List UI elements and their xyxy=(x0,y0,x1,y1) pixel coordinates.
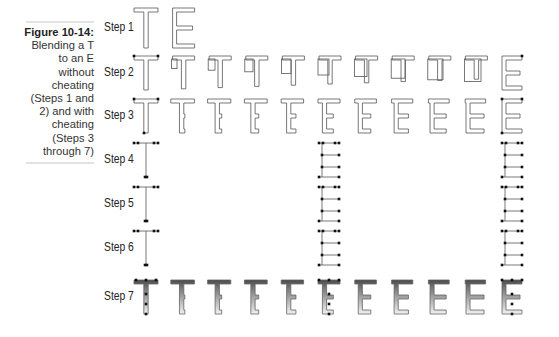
anchor-point xyxy=(145,279,148,282)
anchor-point xyxy=(318,176,321,179)
anchor-point xyxy=(521,55,524,58)
anchor-point xyxy=(501,230,504,233)
blend-step-overlap xyxy=(428,59,443,80)
anchor-point xyxy=(157,142,160,145)
anchor-point xyxy=(318,142,321,145)
anchor-point xyxy=(338,210,341,213)
letter-t-source xyxy=(134,99,158,133)
anchor-point xyxy=(501,176,504,179)
anchor-point xyxy=(318,279,321,282)
anchor-point xyxy=(521,242,524,245)
blend-step-overlap xyxy=(281,59,291,73)
letter-e-skeleton xyxy=(319,231,339,265)
blend-step-shape xyxy=(465,56,487,79)
anchor-point xyxy=(504,154,507,157)
anchor-point xyxy=(145,293,148,296)
anchor-point xyxy=(328,303,331,306)
anchor-point xyxy=(521,220,524,223)
anchor-point xyxy=(157,186,160,189)
anchor-point xyxy=(334,142,337,145)
anchor-point xyxy=(501,186,504,189)
anchor-point xyxy=(321,242,324,245)
anchor-point xyxy=(521,142,524,145)
anchor-point xyxy=(338,198,341,201)
letter-e-target xyxy=(502,56,522,90)
letter-e-outline xyxy=(173,8,195,48)
blend-step-shape xyxy=(428,99,449,133)
anchor-point xyxy=(511,279,514,282)
anchor-point xyxy=(321,198,324,201)
anchor-point xyxy=(521,186,524,189)
blend-step-shape xyxy=(429,56,451,80)
blend-step-shape xyxy=(392,99,413,133)
anchor-point xyxy=(322,186,325,189)
anchor-point xyxy=(338,264,341,267)
anchor-point xyxy=(137,142,140,145)
gradient-blend-shape xyxy=(281,280,303,314)
anchor-point xyxy=(501,132,504,135)
blend-step-shape xyxy=(209,56,231,88)
anchor-point xyxy=(322,142,325,145)
anchor-point xyxy=(511,303,514,306)
anchor-point xyxy=(321,166,324,169)
anchor-point xyxy=(501,98,504,101)
gradient-blend-shape xyxy=(244,280,267,314)
anchor-point xyxy=(338,279,341,282)
anchor-point xyxy=(143,132,146,135)
anchor-point xyxy=(133,186,136,189)
anchor-point xyxy=(145,313,148,316)
anchor-point xyxy=(318,230,321,233)
anchor-point xyxy=(504,210,507,213)
blend-step-shape xyxy=(282,56,304,85)
anchor-point xyxy=(328,293,331,296)
anchor-point xyxy=(517,230,520,233)
anchor-point xyxy=(521,98,524,101)
letter-t-skeleton xyxy=(134,187,158,221)
blend-step-shape xyxy=(244,99,267,133)
anchor-point xyxy=(501,264,504,267)
gradient-blend-shape xyxy=(428,280,449,314)
anchor-point xyxy=(338,176,341,179)
anchor-point xyxy=(146,220,149,223)
blend-step-overlap xyxy=(208,59,215,70)
anchor-point xyxy=(146,264,149,267)
anchor-point xyxy=(505,142,508,145)
blend-step-shape xyxy=(355,99,377,133)
anchor-point xyxy=(157,55,160,58)
letter-e-skeleton xyxy=(502,231,522,265)
anchor-point xyxy=(133,230,136,233)
anchor-point xyxy=(137,186,140,189)
anchor-point xyxy=(338,166,341,169)
blend-step-overlap xyxy=(391,59,405,78)
blend-step-shape xyxy=(208,99,231,133)
gradient-blend-shape xyxy=(208,280,231,314)
anchor-point xyxy=(505,186,508,189)
anchor-point xyxy=(153,230,156,233)
gradient-blend-shape xyxy=(171,280,195,314)
anchor-point xyxy=(318,186,321,189)
blend-step-overlap xyxy=(355,59,367,77)
anchor-point xyxy=(504,198,507,201)
anchor-point xyxy=(338,142,341,145)
blend-diagram xyxy=(0,0,559,337)
letter-e-skeleton xyxy=(502,187,522,221)
anchor-point xyxy=(155,279,158,282)
anchor-point xyxy=(157,230,160,233)
anchor-point xyxy=(321,254,324,257)
anchor-point xyxy=(521,210,524,213)
blend-step-shape xyxy=(318,99,340,133)
letter-t-skeleton xyxy=(134,143,158,177)
anchor-point xyxy=(318,220,321,223)
letter-t-source xyxy=(134,56,158,90)
anchor-point xyxy=(328,313,331,316)
anchor-point xyxy=(501,279,504,282)
anchor-point xyxy=(501,142,504,145)
letter-t-skeleton xyxy=(134,231,158,265)
anchor-point xyxy=(521,279,524,282)
blend-step-shape xyxy=(281,99,303,133)
gradient-blend-shape xyxy=(355,280,377,314)
anchor-point xyxy=(517,186,520,189)
letter-e-skeleton xyxy=(319,143,339,177)
blend-step-shape xyxy=(465,99,485,133)
gradient-blend-shape xyxy=(465,280,485,314)
